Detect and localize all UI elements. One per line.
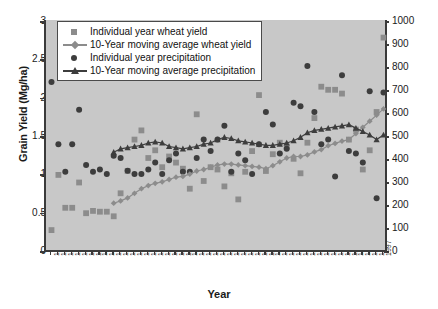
data-point <box>367 132 373 138</box>
data-point <box>125 168 131 174</box>
data-point <box>173 150 179 156</box>
data-point <box>263 109 269 115</box>
data-point <box>235 150 241 156</box>
data-point <box>312 149 318 155</box>
y-axis-right-tick-label: 300 <box>392 177 422 187</box>
data-point <box>311 109 317 115</box>
data-point <box>49 79 55 85</box>
data-point <box>249 171 255 177</box>
y-axis-right-tick-label: 400 <box>392 154 422 164</box>
data-point <box>318 141 324 147</box>
data-point <box>235 162 241 168</box>
data-point <box>187 186 193 192</box>
data-point <box>159 171 165 177</box>
y-axis-right-tick-label: 700 <box>392 85 422 95</box>
data-point <box>97 167 103 173</box>
series-triangle <box>111 121 387 154</box>
y-axis-left-title: Grain Yield (Mg/ha) <box>17 54 29 174</box>
data-point <box>49 227 55 233</box>
data-point <box>180 174 186 180</box>
line-diamond-marker-icon <box>62 38 88 51</box>
data-point <box>339 138 345 144</box>
data-point <box>69 141 75 147</box>
data-point <box>111 200 117 206</box>
legend-item-label: Individual year wheat yield <box>88 26 207 37</box>
data-point <box>304 63 310 69</box>
legend-item[interactable]: Individual year wheat yield <box>62 25 255 38</box>
data-point <box>118 198 124 204</box>
data-point <box>152 139 158 145</box>
data-point <box>318 84 324 90</box>
data-point <box>166 177 172 183</box>
y-axis-right-tick-label: 0 <box>392 246 422 256</box>
data-point <box>332 173 338 179</box>
data-point <box>353 150 359 156</box>
legend-item[interactable]: 10-Year moving average precipitation <box>62 64 255 77</box>
data-point <box>381 35 387 41</box>
data-point <box>374 136 380 142</box>
data-point <box>97 209 103 215</box>
data-point <box>312 115 318 121</box>
legend-item[interactable]: Individual year precipitation <box>62 51 255 64</box>
legend-item[interactable]: 10-Year moving average wheat yield <box>62 38 255 51</box>
series-circle <box>49 63 387 201</box>
chart-legend: Individual year wheat yield10-Year movin… <box>57 21 262 81</box>
data-point <box>318 147 324 153</box>
square-marker-icon <box>62 25 88 38</box>
data-point <box>222 161 228 167</box>
data-point <box>208 140 214 146</box>
legend-item-label: 10-Year moving average precipitation <box>88 65 255 76</box>
data-point <box>201 178 207 184</box>
data-point <box>256 164 262 170</box>
data-point <box>76 180 82 186</box>
data-point <box>152 160 158 166</box>
data-point <box>228 161 234 167</box>
data-point <box>118 190 124 196</box>
data-point <box>76 107 82 113</box>
data-point <box>145 155 151 161</box>
data-point <box>83 162 89 168</box>
data-point <box>166 143 172 149</box>
data-point <box>111 149 117 155</box>
data-point <box>277 159 283 165</box>
data-point <box>90 208 96 214</box>
data-point <box>380 132 386 138</box>
x-axis-title: Year <box>0 288 438 300</box>
data-point <box>270 122 276 128</box>
data-point <box>346 148 352 154</box>
data-point <box>242 169 248 175</box>
data-point <box>381 89 387 95</box>
data-point <box>249 164 255 170</box>
data-point <box>305 152 311 158</box>
data-point <box>291 100 297 106</box>
data-point <box>325 87 331 93</box>
data-point <box>367 147 373 153</box>
legend-item-label: 10-Year moving average wheat yield <box>88 39 251 50</box>
y-axis-right-tick-label: 600 <box>392 108 422 118</box>
y-axis-right-tick-label: 800 <box>392 62 422 72</box>
data-point <box>270 163 276 169</box>
data-point <box>145 167 151 173</box>
data-point <box>270 151 276 157</box>
data-point <box>90 169 96 175</box>
legend-item-label: Individual year precipitation <box>88 52 211 63</box>
data-point <box>132 171 138 177</box>
line-triangle-marker-icon <box>62 64 88 77</box>
data-point <box>325 137 331 143</box>
data-point <box>242 163 248 169</box>
data-point <box>56 172 62 178</box>
chart-figure: Grain Yield (Mg/ha) Precipitation (mm) Y… <box>0 0 438 309</box>
data-point <box>256 92 262 98</box>
data-point <box>69 205 75 211</box>
data-point <box>139 128 145 134</box>
data-point <box>83 210 89 216</box>
data-point <box>339 72 345 78</box>
data-point <box>152 180 158 186</box>
data-point <box>62 205 68 211</box>
data-point <box>360 160 366 166</box>
data-point <box>201 167 207 173</box>
data-point <box>221 134 227 140</box>
data-point <box>194 111 200 117</box>
data-point <box>104 171 110 177</box>
data-point <box>325 143 331 149</box>
